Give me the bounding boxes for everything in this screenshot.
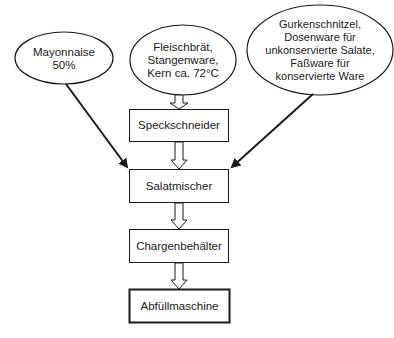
step-label-chargenbehaelter: Chargenbehälter — [129, 229, 229, 263]
line-arrow-gurken-to-salatmischer — [232, 94, 313, 167]
step-label-speckschneider: Speckschneider — [129, 109, 229, 142]
line-arrow-mayonnaise-to-salatmischer — [66, 84, 127, 167]
hollow-arrow-icon — [171, 203, 187, 229]
step-label-salatmischer: Salatmischer — [129, 169, 229, 203]
hollow-arrow-icon — [171, 263, 187, 289]
step-label-abfuellmaschine: Abfüllmaschine — [129, 289, 230, 323]
input-label-fleischbraet: Fleischbrät, Stangenware, Kern ca. 72°C — [130, 25, 236, 95]
hollow-arrow-icon — [170, 95, 188, 109]
input-label-gurken: Gurkenschnitzel, Dosenware für unkonserv… — [247, 5, 393, 95]
input-label-mayonnaise: Mayonnaise 50% — [15, 33, 113, 84]
hollow-arrow-icon — [171, 142, 187, 169]
